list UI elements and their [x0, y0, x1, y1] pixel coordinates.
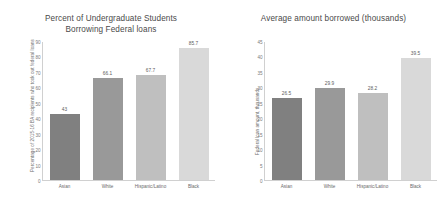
y-axis-tick-label: 20 — [257, 117, 262, 122]
y-axis-tick-label: 5 — [260, 163, 263, 168]
y-axis-tick-label: 10 — [35, 163, 40, 168]
y-axis-tick-label: 10 — [257, 148, 262, 153]
bar-slot: 67.7Hispanic/Latino — [129, 42, 172, 180]
x-axis-category-label: Hispanic/Latino — [135, 184, 166, 189]
bar-slot: 39.5Black — [394, 42, 437, 180]
x-axis-category-label: Asian — [281, 184, 293, 189]
bar-slot: 26.5Asian — [265, 42, 308, 180]
y-axis-tick-label: 0 — [260, 179, 263, 184]
y-axis-tick-label: 40 — [257, 55, 262, 60]
bar[interactable]: 67.7Hispanic/Latino — [136, 75, 166, 180]
y-axis-tick-label: 35 — [257, 70, 262, 75]
y-axis-tick-label: 40 — [35, 117, 40, 122]
bar[interactable]: 29.9White — [315, 88, 345, 180]
y-axis-tick-label: 20 — [35, 148, 40, 153]
bar-slot: 29.9White — [308, 42, 351, 180]
plot-area-right: 26.5Asian29.9White28.2Hispanic/Latino39.… — [264, 42, 437, 181]
y-axis-tick-label: 15 — [257, 132, 262, 137]
x-axis-category-label: Hispanic/Latino — [357, 184, 388, 189]
chart-panel-right: Average amount borrowed (thousands) Fede… — [222, 0, 445, 208]
chart-title-left: Percent of Undergraduate Students Borrow… — [0, 13, 222, 35]
bar-value-label: 43 — [62, 107, 67, 112]
chart-title-left-line1: Percent of Undergraduate Students — [0, 13, 222, 24]
bar-slot: 28.2Hispanic/Latino — [351, 42, 394, 180]
bar[interactable]: 66.1White — [93, 78, 123, 180]
bar[interactable]: 28.2Hispanic/Latino — [358, 93, 388, 180]
y-axis-tick-label: 80 — [35, 55, 40, 60]
dual-bar-chart-figure: Percent of Undergraduate Students Borrow… — [0, 0, 445, 208]
x-axis-category-label: White — [324, 184, 336, 189]
bar-value-label: 29.9 — [325, 81, 334, 86]
bar-value-label: 85.7 — [189, 41, 198, 46]
bar-value-label: 39.5 — [411, 51, 420, 56]
y-axis-tick-label: 45 — [257, 40, 262, 45]
bar-value-label: 28.2 — [368, 86, 377, 91]
bar[interactable]: 39.5Black — [401, 58, 431, 180]
bar-value-label: 26.5 — [282, 91, 291, 96]
bar-slot: 43Asian — [43, 42, 86, 180]
y-axis-tick-label: 90 — [35, 40, 40, 45]
x-axis-category-label: Black — [410, 184, 421, 189]
y-axis-tick-label: 60 — [35, 86, 40, 91]
y-axis-tick-label: 30 — [35, 132, 40, 137]
y-axis-tick-label: 50 — [35, 101, 40, 106]
chart-title-left-line2: Borrowing Federal loans — [0, 24, 222, 35]
bar-slot: 85.7Black — [172, 42, 215, 180]
bar[interactable]: 26.5Asian — [272, 98, 302, 180]
y-axis-title-left: Percentage of 2015-16 BA recipients who … — [30, 39, 35, 172]
bar-value-label: 67.7 — [146, 68, 155, 73]
chart-title-right-line1: Average amount borrowed (thousands) — [222, 13, 445, 24]
bar[interactable]: 85.7Black — [179, 48, 209, 180]
y-axis-tick-label: 25 — [257, 101, 262, 106]
y-axis-tick-label: 0 — [38, 179, 41, 184]
chart-title-right: Average amount borrowed (thousands) — [222, 13, 445, 24]
x-axis-category-label: Asian — [59, 184, 71, 189]
plot-area-left: 43Asian66.1White67.7Hispanic/Latino85.7B… — [42, 42, 215, 181]
bar-value-label: 66.1 — [103, 71, 112, 76]
x-axis-category-label: White — [102, 184, 114, 189]
y-axis-tick-label: 30 — [257, 86, 262, 91]
x-axis-category-label: Black — [188, 184, 199, 189]
bar[interactable]: 43Asian — [50, 114, 80, 180]
chart-panel-left: Percent of Undergraduate Students Borrow… — [0, 0, 222, 208]
bar-slot: 66.1White — [86, 42, 129, 180]
y-axis-tick-label: 70 — [35, 70, 40, 75]
bar-group-right: 26.5Asian29.9White28.2Hispanic/Latino39.… — [265, 42, 437, 180]
bar-group-left: 43Asian66.1White67.7Hispanic/Latino85.7B… — [43, 42, 215, 180]
